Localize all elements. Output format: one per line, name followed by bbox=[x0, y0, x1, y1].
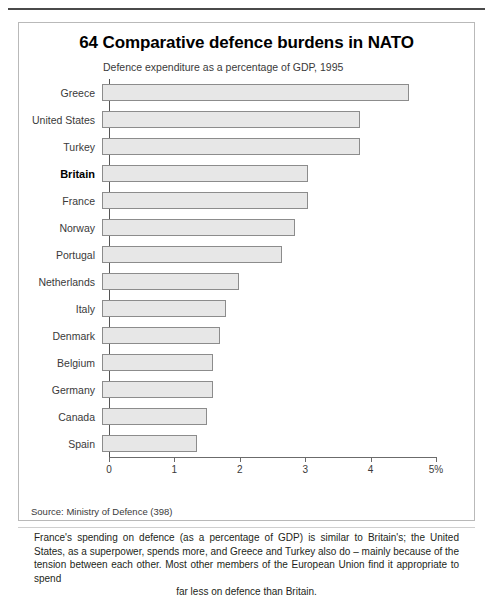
bar-row: Britain bbox=[19, 160, 476, 187]
x-tick bbox=[305, 457, 306, 462]
x-tick-label: 5% bbox=[429, 464, 443, 475]
bar-row: Canada bbox=[19, 403, 476, 430]
category-label: Norway bbox=[19, 222, 102, 234]
bar-cell bbox=[102, 322, 476, 349]
bar-cell bbox=[102, 403, 476, 430]
bar-cell bbox=[102, 187, 476, 214]
plot-area: GreeceUnited StatesTurkeyBritainFranceNo… bbox=[19, 79, 476, 499]
source-note: Source: Ministry of Defence (398) bbox=[31, 506, 173, 517]
bar bbox=[102, 138, 360, 155]
x-tick bbox=[436, 457, 437, 462]
category-label: Britain bbox=[19, 168, 102, 180]
category-label: Spain bbox=[19, 438, 102, 450]
bar bbox=[102, 435, 197, 452]
bar-cell bbox=[102, 79, 476, 106]
bar-row: United States bbox=[19, 106, 476, 133]
bar-rows: GreeceUnited StatesTurkeyBritainFranceNo… bbox=[19, 79, 476, 457]
chart-title: 64 Comparative defence burdens in NATO bbox=[19, 33, 474, 53]
bar-row: Norway bbox=[19, 214, 476, 241]
category-label: Greece bbox=[19, 87, 102, 99]
bar-row: Greece bbox=[19, 79, 476, 106]
bar-row: France bbox=[19, 187, 476, 214]
category-label: Netherlands bbox=[19, 276, 102, 288]
bar bbox=[102, 354, 213, 371]
chart-panel: 64 Comparative defence burdens in NATO D… bbox=[18, 22, 475, 521]
bar bbox=[102, 219, 295, 236]
bar-cell bbox=[102, 106, 476, 133]
bar bbox=[102, 192, 308, 209]
bar-row: Germany bbox=[19, 376, 476, 403]
x-tick bbox=[109, 457, 110, 462]
x-tick-label: 2 bbox=[237, 464, 243, 475]
bar bbox=[102, 408, 207, 425]
bar bbox=[102, 165, 308, 182]
category-label: Turkey bbox=[19, 141, 102, 153]
bar-cell bbox=[102, 133, 476, 160]
bar-cell bbox=[102, 160, 476, 187]
x-tick bbox=[371, 457, 372, 462]
caption-last-line: far less on defence than Britain. bbox=[34, 585, 459, 599]
chart-subtitle: Defence expenditure as a percentage of G… bbox=[103, 61, 474, 73]
bar-cell bbox=[102, 349, 476, 376]
bar-row: Belgium bbox=[19, 349, 476, 376]
category-label: Belgium bbox=[19, 357, 102, 369]
bar-cell bbox=[102, 430, 476, 457]
x-tick bbox=[174, 457, 175, 462]
bar-cell bbox=[102, 241, 476, 268]
bar bbox=[102, 381, 213, 398]
category-label: United States bbox=[19, 114, 102, 126]
x-tick-label: 1 bbox=[172, 464, 178, 475]
bar bbox=[102, 300, 226, 317]
x-tick-label: 0 bbox=[106, 464, 112, 475]
category-label: France bbox=[19, 195, 102, 207]
bar bbox=[102, 84, 409, 101]
bar-cell bbox=[102, 268, 476, 295]
bar-row: Portugal bbox=[19, 241, 476, 268]
caption-block: France's spending on defence (as a perce… bbox=[18, 527, 475, 599]
bar-cell bbox=[102, 295, 476, 322]
bar-cell bbox=[102, 214, 476, 241]
x-tick bbox=[240, 457, 241, 462]
bar-row: Italy bbox=[19, 295, 476, 322]
category-label: Italy bbox=[19, 303, 102, 315]
bar-row: Turkey bbox=[19, 133, 476, 160]
category-label: Portugal bbox=[19, 249, 102, 261]
caption-body: France's spending on defence (as a perce… bbox=[34, 532, 459, 584]
bar bbox=[102, 327, 220, 344]
bar bbox=[102, 111, 360, 128]
category-label: Germany bbox=[19, 384, 102, 396]
bar-row: Spain bbox=[19, 430, 476, 457]
category-label: Denmark bbox=[19, 330, 102, 342]
category-label: Canada bbox=[19, 411, 102, 423]
x-tick-label: 3 bbox=[302, 464, 308, 475]
bar-cell bbox=[102, 376, 476, 403]
bar bbox=[102, 273, 239, 290]
bar-row: Netherlands bbox=[19, 268, 476, 295]
bar bbox=[102, 246, 282, 263]
bar-row: Denmark bbox=[19, 322, 476, 349]
x-tick-label: 4 bbox=[368, 464, 374, 475]
page-top-rule bbox=[8, 8, 485, 10]
x-axis: 012345% bbox=[109, 457, 436, 458]
